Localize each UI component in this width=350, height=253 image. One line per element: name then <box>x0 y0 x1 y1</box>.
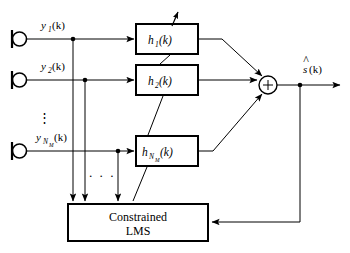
svg-text:N: N <box>42 137 49 146</box>
adaptation-link-1 <box>160 55 170 64</box>
filter-output-line-nm <box>198 94 262 151</box>
filter-output-line-1 <box>198 39 262 76</box>
label-output: ^ s (k) <box>303 53 322 76</box>
svg-text:h: h <box>142 146 148 158</box>
svg-text:h: h <box>148 75 154 87</box>
microphone-nm <box>12 142 27 160</box>
svg-text:(k): (k) <box>52 60 65 73</box>
svg-text:y: y <box>40 60 46 72</box>
svg-text:(k): (k) <box>54 131 67 144</box>
horizontal-ellipsis: · · · <box>89 168 116 183</box>
svg-text:y: y <box>35 131 41 143</box>
svg-text:(k): (k) <box>160 146 173 159</box>
adaptation-link-nm <box>133 167 147 201</box>
label-signal-1: y 1 (k) <box>40 19 65 34</box>
block-diagram-svg: y 1 (k) y 2 (k) y N M (k) h 1 (k) h 2 (k… <box>0 0 350 253</box>
microphone-1 <box>12 30 27 48</box>
svg-text:(k): (k) <box>159 75 172 88</box>
adaptation-link-2 <box>148 96 163 135</box>
svg-text:s: s <box>303 63 307 75</box>
microphone-2 <box>12 71 27 89</box>
lms-block-line1: Constrained <box>109 210 167 224</box>
lms-block-line2: LMS <box>126 224 151 238</box>
vertical-ellipsis: ⋮ <box>38 110 53 125</box>
svg-text:h: h <box>148 34 154 46</box>
label-signal-nm: y N M (k) <box>35 131 67 148</box>
svg-text:(k): (k) <box>52 19 65 32</box>
svg-text:N: N <box>148 152 155 161</box>
diagram-canvas: y 1 (k) y 2 (k) y N M (k) h 1 (k) h 2 (k… <box>0 0 350 253</box>
svg-text:y: y <box>40 19 46 31</box>
label-signal-2: y 2 (k) <box>40 60 65 75</box>
svg-text:(k): (k) <box>309 63 322 76</box>
feedback-line <box>212 85 300 222</box>
svg-text:(k): (k) <box>159 34 172 47</box>
